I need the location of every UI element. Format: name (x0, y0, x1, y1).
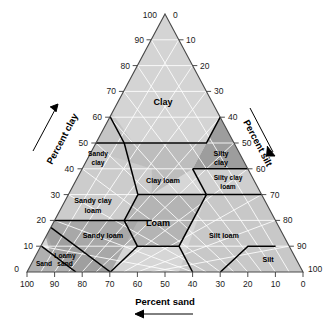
clay-tick-80: 80 (121, 61, 131, 71)
clay-tick-70: 70 (107, 86, 117, 96)
label-sandy-clay-loam-line1: Sandy clay (74, 196, 112, 205)
label-silt: Silt (262, 255, 274, 264)
label-sandy-clay-line2: clay (92, 159, 105, 167)
silt-tick-30: 30 (214, 86, 224, 96)
sand-tick-100: 100 (20, 279, 34, 289)
sand-tick-50: 50 (160, 279, 170, 289)
label-silty-clay-line2: clay (214, 158, 228, 167)
label-loamy-sand-line2: sand (57, 260, 72, 267)
silt-tick-70: 70 (270, 190, 280, 200)
silt-tick-20: 20 (200, 61, 210, 71)
label-sandy-loam: Sandy loam (83, 231, 123, 240)
silt-tick-40: 40 (228, 112, 238, 122)
sand-direction-arrow (135, 310, 193, 318)
clay-tick-10: 10 (24, 241, 34, 251)
axis-title-sand-group: Percent sand (135, 296, 195, 318)
label-loam: Loam (146, 218, 170, 228)
label-sand: Sand (36, 260, 52, 267)
label-silty-clay-loam-line2: loam (220, 183, 236, 190)
sand-tick-30: 30 (215, 279, 225, 289)
clay-tick-60: 60 (93, 112, 103, 122)
label-silty-clay-loam-line1: Silty clay (214, 174, 243, 182)
sand-tick-90: 90 (50, 279, 60, 289)
label-silty-clay-line1: Silty (213, 149, 228, 158)
label-loamy-sand-line1: Loamy (54, 252, 76, 260)
label-clay-loam: Clay loam (146, 176, 180, 185)
clay-tick-40: 40 (65, 164, 75, 174)
sand-tick-0: 0 (301, 279, 306, 289)
axis-title-sand: Percent sand (135, 296, 195, 307)
label-silt-loam: Silt loam (209, 231, 239, 240)
bottom-axis-tick-labels: 100 90 80 70 60 50 40 30 20 10 0 (20, 279, 306, 289)
clay-tick-30: 30 (51, 190, 61, 200)
clay-tick-100: 100 (143, 10, 157, 20)
soil-texture-triangle-figure: 90 80 70 60 50 40 30 20 10 0 100 0 10 20… (0, 0, 331, 320)
bottom-axis-ticks (27, 272, 303, 277)
silt-tick-0: 0 (173, 10, 178, 20)
ternary-diagram-svg: 90 80 70 60 50 40 30 20 10 0 100 0 10 20… (0, 0, 331, 320)
sand-tick-10: 10 (271, 279, 281, 289)
sand-tick-70: 70 (105, 279, 115, 289)
sand-tick-80: 80 (77, 279, 87, 289)
label-sandy-clay-line1: Sandy (88, 150, 108, 158)
label-clay: Clay (153, 97, 172, 107)
clay-tick-50: 50 (79, 138, 89, 148)
axis-title-clay-group: Percent clay (33, 104, 80, 166)
silt-tick-10: 10 (186, 35, 196, 45)
clay-tick-90: 90 (135, 35, 145, 45)
clay-tick-0: 0 (14, 264, 19, 274)
clay-tick-20: 20 (37, 215, 47, 225)
label-sandy-clay-loam-line2: loam (85, 206, 102, 215)
sand-tick-20: 20 (243, 279, 253, 289)
sand-tick-60: 60 (133, 279, 143, 289)
silt-tick-90: 90 (297, 241, 307, 251)
sand-tick-40: 40 (188, 279, 198, 289)
silt-tick-100: 100 (308, 264, 322, 274)
silt-tick-80: 80 (283, 215, 293, 225)
